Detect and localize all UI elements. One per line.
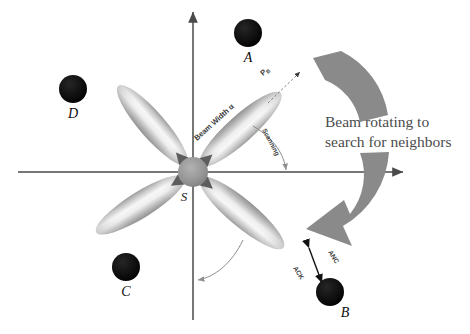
rotation-caption: Beam rotating to search for neighbors: [325, 113, 452, 150]
lobe-lower-left: [89, 166, 191, 243]
scanning-arc-lower: [198, 240, 243, 280]
anc-ack-arrow: [309, 248, 322, 283]
neighbor-node-b-label: B: [341, 305, 350, 320]
lobe-lower-right: [192, 168, 292, 258]
rotation-arrow-top: [313, 51, 388, 122]
neighbor-node-a[interactable]: A: [234, 19, 262, 65]
ack-label: ACK: [292, 265, 306, 281]
probe-arrow: [268, 72, 300, 103]
caption-line-1: Beam rotating to: [325, 113, 429, 130]
neighbor-node-c[interactable]: C: [112, 253, 140, 299]
rotation-arrow-bottom: [306, 152, 389, 246]
neighbor-node-c-label: C: [121, 284, 131, 299]
caption-line-2: search for neighbors: [325, 133, 452, 150]
neighbor-node-d[interactable]: D: [59, 75, 87, 121]
neighbor-node-a-label: A: [243, 50, 253, 65]
neighbor-node-b[interactable]: B: [316, 278, 350, 320]
lobe-upper-left: [108, 77, 196, 173]
anc-label: ANC: [327, 249, 341, 265]
ack-text: ACK: [292, 265, 306, 281]
figure-canvas: S A B C D PB Beam Width α: [0, 0, 470, 334]
probe-label: PB: [258, 65, 271, 79]
svg-text:PB: PB: [258, 65, 271, 79]
anc-text: ANC: [327, 249, 341, 265]
beamforming-diagram: S A B C D PB Beam Width α: [0, 0, 470, 334]
scanning-label: Scanning: [260, 127, 281, 157]
scanning-text: Scanning: [260, 127, 281, 157]
neighbor-node-d-label: D: [67, 106, 78, 121]
center-node-label: S: [181, 189, 188, 204]
